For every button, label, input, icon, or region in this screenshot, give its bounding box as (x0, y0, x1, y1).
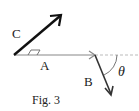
vector-diagram (0, 0, 139, 111)
label-c: C (12, 27, 21, 40)
vector-c-arrow (14, 15, 61, 55)
label-theta: θ (118, 65, 125, 79)
figure-caption: Fig. 3 (32, 94, 60, 106)
label-a: A (40, 59, 49, 72)
figure-3-diagram: C A B θ Fig. 3 (0, 0, 139, 111)
right-angle-marker (28, 50, 40, 55)
label-b: B (84, 75, 93, 88)
vector-a-arrow (14, 51, 95, 59)
theta-angle-arc (104, 55, 117, 75)
